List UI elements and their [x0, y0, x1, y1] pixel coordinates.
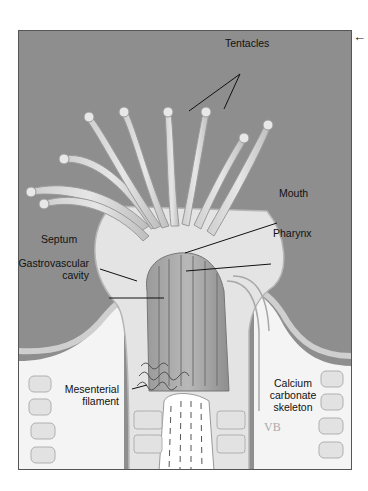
- label-mesenterial-filament: Mesenterial filament: [45, 383, 119, 407]
- label-calcium-line2: carbonate: [263, 389, 323, 401]
- label-gastrovascular-cavity: Gastrovascular cavity: [18, 257, 89, 281]
- label-calcium-line3: skeleton: [263, 401, 323, 413]
- label-gastrovascular-line1: Gastrovascular: [18, 257, 89, 269]
- label-mouth: Mouth: [279, 187, 308, 199]
- diagram-frame: VB Tentacles Mouth Pharynx Septum Gastro…: [18, 30, 352, 470]
- artist-signature: VB: [264, 420, 281, 434]
- label-tentacles: Tentacles: [225, 37, 269, 49]
- arrow-left-icon[interactable]: ←: [353, 30, 366, 43]
- label-mesenterial-line1: Mesenterial: [45, 383, 119, 395]
- label-gastrovascular-line2: cavity: [18, 269, 89, 281]
- label-calcium-carbonate-skeleton: Calcium carbonate skeleton: [263, 377, 323, 413]
- label-pharynx: Pharynx: [273, 227, 312, 239]
- label-mesenterial-line2: filament: [45, 395, 119, 407]
- label-calcium-line1: Calcium: [263, 377, 323, 389]
- label-septum: Septum: [41, 233, 77, 245]
